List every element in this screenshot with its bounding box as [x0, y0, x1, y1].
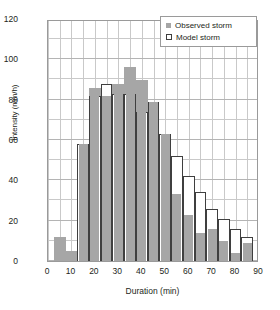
chart-legend: Observed storm Model storm	[160, 16, 257, 47]
bar-observed-overlay	[219, 241, 228, 261]
y-tick-label: 80	[0, 95, 18, 105]
bar-observed	[54, 237, 66, 261]
bar-observed-overlay	[126, 67, 135, 261]
y-tick-label: 40	[0, 175, 18, 185]
y-tick-label: 120	[0, 14, 18, 24]
observed-swatch-icon	[166, 23, 171, 28]
bar-observed-overlay	[184, 215, 193, 261]
y-axis-title: Intensity (mm/h)	[10, 53, 19, 173]
bar-observed-overlay	[161, 134, 170, 261]
x-axis-title: Duration (min)	[47, 286, 258, 296]
y-tick-label: 60	[0, 135, 18, 145]
legend-item-model: Model storm	[166, 32, 252, 44]
bars-group	[48, 21, 257, 261]
legend-label-observed: Observed storm	[175, 20, 232, 32]
plot-area	[47, 20, 258, 262]
bar-observed-overlay	[231, 253, 240, 261]
bar-observed-overlay	[114, 84, 123, 261]
y-tick-label: 0	[0, 256, 18, 266]
bar-observed-overlay	[208, 229, 217, 261]
x-tick-label: 90	[243, 266, 273, 276]
storm-intensity-chart: Intensity (mm/h) 020406080100120 0102030…	[0, 0, 280, 310]
bar-observed-overlay	[90, 88, 99, 261]
bar-observed-overlay	[102, 96, 111, 261]
legend-label-model: Model storm	[176, 32, 220, 44]
bar-observed-overlay	[196, 233, 205, 261]
bar-observed-overlay	[243, 243, 252, 261]
y-tick-label: 100	[0, 54, 18, 64]
legend-item-observed: Observed storm	[166, 20, 252, 32]
bar-observed-overlay	[137, 80, 146, 262]
bar-observed	[66, 251, 78, 261]
model-swatch-icon	[166, 34, 172, 40]
bar-observed-overlay	[172, 194, 181, 261]
bar-observed-overlay	[149, 102, 158, 261]
y-tick-label: 20	[0, 216, 18, 226]
bar-observed-overlay	[79, 144, 88, 261]
